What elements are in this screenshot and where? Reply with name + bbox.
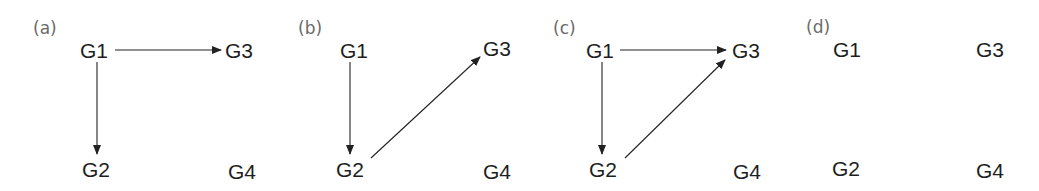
node-g1: G1 xyxy=(833,38,861,61)
panel-label-a: (a) xyxy=(33,18,57,38)
node-g2: G2 xyxy=(589,158,617,181)
node-g3: G3 xyxy=(483,37,511,60)
node-g4: G4 xyxy=(483,160,511,183)
node-g3: G3 xyxy=(225,39,253,62)
node-g2: G2 xyxy=(832,157,860,180)
edge-g2-to-g3 xyxy=(371,57,480,158)
panel-label-b: (b) xyxy=(298,18,322,38)
node-g2: G2 xyxy=(336,158,364,181)
diagram-canvas: (a) G1 G3 G2 G4 (b) G1 G3 G2 G4 (c) G1 G… xyxy=(0,0,1039,191)
panel-c: (c) G1 G3 G2 G4 xyxy=(553,18,761,183)
panel-b: (b) G1 G3 G2 G4 xyxy=(298,18,511,183)
panel-d: (d) G1 G3 G2 G4 xyxy=(806,17,1004,182)
node-g1: G1 xyxy=(340,39,368,62)
node-g2: G2 xyxy=(82,158,110,181)
panel-label-d: (d) xyxy=(806,17,830,37)
node-g3: G3 xyxy=(732,39,760,62)
edge-g2-to-g3 xyxy=(625,60,725,158)
node-g1: G1 xyxy=(80,39,108,62)
panel-label-c: (c) xyxy=(553,18,576,38)
node-g4: G4 xyxy=(976,159,1004,182)
node-g4: G4 xyxy=(228,160,256,183)
node-g1: G1 xyxy=(586,39,614,62)
panel-a: (a) G1 G3 G2 G4 xyxy=(33,18,256,183)
node-g3: G3 xyxy=(976,38,1004,61)
node-g4: G4 xyxy=(733,160,761,183)
